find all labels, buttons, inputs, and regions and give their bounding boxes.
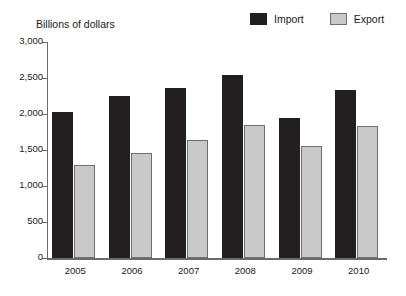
bar-export-2005	[74, 165, 95, 258]
bar-export-2008	[244, 125, 265, 258]
bar-group-2009	[279, 42, 322, 258]
bar-chart: Import Export Billions of dollars 05001,…	[0, 0, 406, 296]
bar-export-2010	[357, 126, 378, 258]
plot-area: 05001,0001,5002,0002,5003,000 2005200620…	[47, 42, 387, 258]
x-tick-label-2006: 2006	[104, 266, 161, 276]
legend-swatch-import-icon	[250, 13, 267, 25]
bar-group-2007	[165, 42, 208, 258]
bar-group-2010	[335, 42, 378, 258]
y-axis-unit-title: Billions of dollars	[36, 19, 115, 30]
x-tick-label-2010: 2010	[330, 266, 387, 276]
legend-label-export: Export	[354, 14, 384, 25]
legend-swatch-export-icon	[330, 13, 347, 25]
bar-import-2009	[279, 118, 300, 258]
y-tick-label: 3,000	[19, 36, 43, 46]
x-tick-label-2009: 2009	[274, 266, 331, 276]
bar-export-2006	[131, 153, 152, 258]
bar-group-2005	[52, 42, 95, 258]
bar-import-2010	[335, 90, 356, 258]
x-tick-label-2005: 2005	[47, 266, 104, 276]
y-tick-label: 500	[27, 216, 43, 226]
y-tick-label: 1,000	[19, 180, 43, 190]
bar-export-2007	[187, 140, 208, 258]
bar-import-2006	[109, 96, 130, 258]
y-tick-label: 2,500	[19, 72, 43, 82]
x-tick-label-2008: 2008	[217, 266, 274, 276]
bar-import-2005	[52, 112, 73, 258]
x-axis-line	[47, 258, 387, 260]
bar-export-2009	[301, 146, 322, 258]
legend-label-import: Import	[274, 14, 304, 25]
y-tick-label: 0	[38, 252, 43, 262]
y-tick-label: 1,500	[19, 144, 43, 154]
chart-legend: Import Export	[250, 10, 384, 28]
bar-import-2008	[222, 75, 243, 258]
bar-import-2007	[165, 88, 186, 258]
legend-item-export: Export	[330, 13, 384, 25]
bar-group-2008	[222, 42, 265, 258]
legend-item-import: Import	[250, 13, 304, 25]
x-tick-label-2007: 2007	[160, 266, 217, 276]
bar-group-2006	[109, 42, 152, 258]
y-tick-label: 2,000	[19, 108, 43, 118]
